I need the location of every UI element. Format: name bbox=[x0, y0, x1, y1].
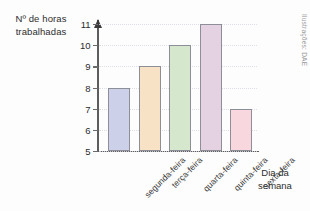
y-tick-label: 11 bbox=[81, 19, 91, 30]
gridline bbox=[99, 151, 257, 153]
y-tick-mark bbox=[93, 24, 98, 25]
y-tick-mark bbox=[93, 66, 98, 67]
plot-area: 111098765 segunda-feiraterça-feiraquarta… bbox=[97, 14, 257, 152]
bar bbox=[108, 88, 130, 152]
y-axis-title: Nº de horas trabalhadas bbox=[2, 12, 80, 38]
y-tick-label: 9 bbox=[85, 61, 90, 72]
x-axis-title: Dia da semana bbox=[248, 166, 302, 192]
y-tick-label: 10 bbox=[80, 40, 91, 51]
gridline bbox=[99, 24, 257, 26]
y-tick-label: 8 bbox=[85, 82, 90, 93]
bar bbox=[139, 66, 161, 151]
y-tick-label: 6 bbox=[85, 124, 90, 135]
y-axis-line bbox=[97, 20, 99, 152]
y-tick-mark bbox=[93, 109, 98, 110]
y-tick-mark bbox=[93, 88, 98, 89]
bar bbox=[230, 109, 252, 151]
y-tick-mark bbox=[93, 130, 98, 131]
y-tick-label: 5 bbox=[85, 146, 90, 157]
y-tick-mark bbox=[93, 45, 98, 46]
chart-figure: Nº de horas trabalhadas 111098765 segund… bbox=[0, 0, 310, 211]
bar bbox=[169, 45, 191, 151]
y-tick-mark bbox=[93, 151, 98, 152]
y-tick-label: 7 bbox=[85, 103, 90, 114]
bar bbox=[200, 24, 222, 151]
credit-text: Ilustrações: DAE bbox=[301, 14, 308, 66]
